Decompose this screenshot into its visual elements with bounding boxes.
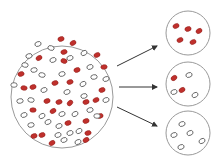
- sample-2-mixed: [166, 62, 210, 106]
- sample-2-mixed-outline-icon: [166, 62, 210, 106]
- diagram-canvas: [0, 0, 215, 167]
- sample-3-all-white: [166, 111, 210, 155]
- red-cell-icon: [69, 39, 77, 46]
- population-circle: [11, 36, 113, 148]
- arrow-icon: [117, 107, 157, 126]
- white-cell-icon: [94, 114, 100, 119]
- sampling-diagram: [0, 0, 215, 167]
- red-cell-icon: [57, 36, 65, 43]
- red-cell-icon: [30, 108, 36, 113]
- white-cell-icon: [34, 41, 42, 48]
- sample-1-all-red-outline-icon: [166, 11, 210, 55]
- arrow-icon: [117, 46, 157, 66]
- sampling-arrows: [117, 46, 157, 126]
- white-cell-icon: [11, 83, 17, 88]
- sample-circles: [166, 11, 210, 155]
- sample-1-all-red: [166, 11, 210, 55]
